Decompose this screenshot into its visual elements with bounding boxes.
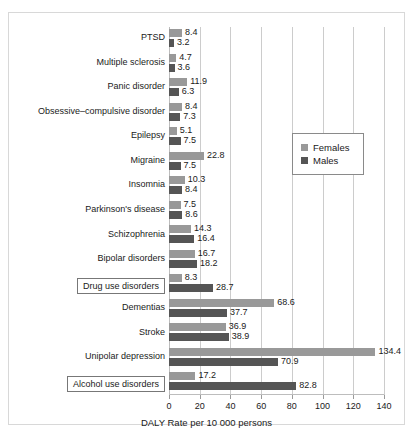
category-label: Obsessive–compulsive disorder [38,106,165,116]
bar-males [169,358,278,366]
value-label: 38.9 [232,332,250,340]
value-label: 5.1 [180,126,193,134]
bar-males [169,88,179,96]
value-label: 28.7 [216,283,234,291]
category-label: Insomnia [128,179,165,189]
tick-label-60: 60 [256,401,266,411]
category-label: Alcohol use disorders [67,376,165,392]
bar-row: 14.316.4 [169,223,384,248]
bar-row: 134.470.9 [169,346,384,371]
value-label: 10.3 [188,175,206,183]
category-label: Panic disorder [107,81,165,91]
value-label: 8.6 [185,210,198,218]
tick-mark-60 [261,395,262,399]
value-label: 7.5 [184,200,197,208]
tick-label-80: 80 [287,401,297,411]
bar-females [169,348,375,356]
bar-males [169,211,182,219]
bar-females [169,225,191,233]
bar-row: 17.282.8 [169,370,384,395]
tick-label-0: 0 [166,401,171,411]
bar-females [169,201,181,209]
bar-males [169,162,181,170]
bar-females [169,78,187,86]
value-label: 68.6 [277,298,295,306]
category-label: Parkinson's disease [85,204,165,214]
bar-row: 7.58.6 [169,199,384,224]
tick-label-120: 120 [346,401,361,411]
value-label: 16.7 [198,249,216,257]
bar-males [169,186,182,194]
category-label: Migraine [130,155,165,165]
tick-label-40: 40 [225,401,235,411]
plot-area: 8.43.24.73.611.96.38.47.35.17.522.87.510… [169,27,384,395]
bar-females [169,127,177,135]
legend-label-females: Females [313,142,349,153]
bar-row: 11.96.3 [169,76,384,101]
bar-males [169,137,181,145]
bar-females [169,103,182,111]
category-label: Epilepsy [131,130,165,140]
value-label: 22.8 [207,151,225,159]
legend-item-females: Females [301,142,349,153]
tick-mark-20 [200,395,201,399]
tick-mark-40 [230,395,231,399]
category-label: Multiple sclerosis [96,57,165,67]
value-label: 3.6 [178,63,191,71]
x-axis-title: DALY Rate per 10 000 persons [9,417,404,428]
bar-females [169,372,195,380]
bar-males [169,113,180,121]
bar-females [169,299,274,307]
value-label: 3.2 [177,38,190,46]
value-label: 8.4 [185,185,198,193]
bar-males [169,39,174,47]
bar-females [169,152,204,160]
bar-rows: 8.43.24.73.611.96.38.47.35.17.522.87.510… [169,27,384,395]
value-label: 17.2 [198,371,216,379]
bar-males [169,284,213,292]
bar-row: 16.718.2 [169,248,384,273]
category-label: Bipolar disorders [97,253,165,263]
chart-figure: 8.43.24.73.611.96.38.47.35.17.522.87.510… [8,12,405,425]
bar-row: 8.43.2 [169,27,384,52]
value-label: 36.9 [229,322,247,330]
chart-legend: Females Males [292,133,364,175]
bar-females [169,323,226,331]
tick-mark-120 [353,395,354,399]
tick-mark-140 [384,395,385,399]
bar-row: 8.47.3 [169,101,384,126]
value-label: 8.4 [185,28,198,36]
value-label: 11.9 [190,77,207,85]
value-label: 4.7 [179,53,192,61]
value-label: 18.2 [200,259,218,267]
tick-mark-0 [169,395,170,399]
bar-males [169,382,296,390]
value-label: 7.5 [184,161,197,169]
legend-item-males: Males [301,155,349,166]
bar-males [169,333,229,341]
value-label: 8.3 [185,273,198,281]
legend-label-males: Males [313,155,338,166]
category-label: Dementias [122,302,165,312]
tick-mark-100 [323,395,324,399]
gridline-140 [384,27,385,395]
tick-label-100: 100 [315,401,330,411]
value-label: 37.7 [230,308,248,316]
tick-mark-80 [292,395,293,399]
bar-row: 36.938.9 [169,321,384,346]
value-label: 6.3 [182,87,195,95]
bar-row: 68.637.7 [169,297,384,322]
value-label: 134.4 [378,347,401,355]
category-label: PTSD [141,32,165,42]
value-label: 7.5 [184,136,197,144]
category-label: Drug use disorders [77,278,165,294]
bar-males [169,260,197,268]
bar-row: 4.73.6 [169,52,384,77]
category-label: Schizophrenia [108,229,165,239]
category-label: Unipolar depression [85,351,165,361]
bar-row: 8.328.7 [169,272,384,297]
value-label: 70.9 [281,357,299,365]
tick-label-20: 20 [195,401,205,411]
category-label: Stroke [139,327,165,337]
bar-females [169,274,182,282]
